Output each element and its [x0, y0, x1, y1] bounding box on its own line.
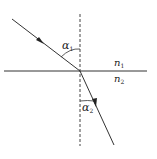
n1-label: n1 — [114, 57, 124, 69]
n2-label: n2 — [114, 73, 124, 85]
alpha1-label: α1 — [62, 39, 73, 52]
refraction-diagram: α1 α2 n1 n2 — [0, 0, 157, 159]
alpha2-label: α2 — [82, 101, 93, 114]
